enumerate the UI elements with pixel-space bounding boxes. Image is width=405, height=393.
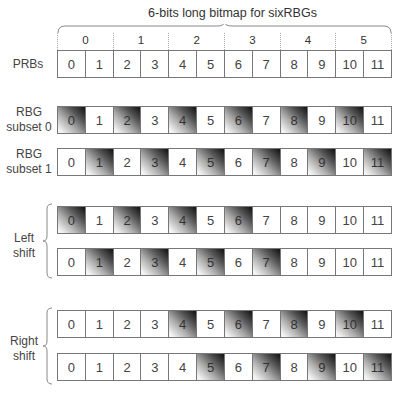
prb-cell: 1 xyxy=(86,311,114,337)
prb-cell: 8 xyxy=(281,249,309,275)
prb-cell: 7 xyxy=(253,107,281,133)
prb-cell: 3 xyxy=(141,51,169,77)
label-text: PRBs xyxy=(13,57,44,71)
prb-cell: 11 xyxy=(364,107,391,133)
prb-cell-selected: 8 xyxy=(281,311,309,337)
prb-cell: 4 xyxy=(169,249,197,275)
prb-cell: 0 xyxy=(58,249,86,275)
left-shift-brace-icon xyxy=(42,203,54,279)
prb-cell: 0 xyxy=(58,354,86,380)
prb-cell-selected: 8 xyxy=(281,107,309,133)
prb-cell: 10 xyxy=(336,207,364,233)
label-text: RBG xyxy=(2,105,56,120)
prb-cell: 11 xyxy=(364,207,391,233)
prb-cell: 1 xyxy=(86,207,114,233)
prb-cell: 5 xyxy=(197,107,225,133)
row-left-shift-subset-0: 01234567891011 xyxy=(57,206,392,234)
prb-cell: 9 xyxy=(308,249,336,275)
prb-cell: 8 xyxy=(281,207,309,233)
prb-cell: 6 xyxy=(225,51,253,77)
prb-cell: 9 xyxy=(308,207,336,233)
row-label-rbg-subset-1: RBG subset 1 xyxy=(2,147,56,177)
prb-cell: 10 xyxy=(336,51,364,77)
prb-cell-selected: 6 xyxy=(225,311,253,337)
rbg-index: 1 xyxy=(113,33,169,50)
prb-cell: 2 xyxy=(114,311,142,337)
prb-cell-selected: 9 xyxy=(308,354,336,380)
prb-cell: 1 xyxy=(86,107,114,133)
prb-cell: 1 xyxy=(86,51,114,77)
prb-cell: 3 xyxy=(141,354,169,380)
right-shift-brace-icon xyxy=(42,307,54,385)
prb-cell-selected: 3 xyxy=(141,149,169,175)
prb-cell: 6 xyxy=(225,149,253,175)
prb-cell: 3 xyxy=(141,311,169,337)
prb-cell: 7 xyxy=(253,311,281,337)
row-left-shift-subset-1: 01234567891011 xyxy=(57,248,392,276)
prb-cell-selected: 4 xyxy=(169,107,197,133)
prb-cell: 2 xyxy=(114,51,142,77)
prb-cell: 6 xyxy=(225,354,253,380)
prb-cell: 0 xyxy=(58,149,86,175)
prb-cell-selected: 1 xyxy=(86,149,114,175)
rbg-index: 0 xyxy=(57,33,113,50)
label-text: subset 0 xyxy=(2,120,56,135)
prb-cell-selected: 1 xyxy=(86,249,114,275)
prb-cell: 1 xyxy=(86,354,114,380)
prb-cell-selected: 2 xyxy=(114,207,142,233)
prb-cell: 8 xyxy=(281,149,309,175)
prb-cell: 4 xyxy=(169,51,197,77)
prb-cell-selected: 0 xyxy=(58,207,86,233)
prb-cell-selected: 9 xyxy=(308,149,336,175)
prb-cell-selected: 11 xyxy=(364,149,391,175)
diagram-title: 6-bits long bitmap for sixRBGs xyxy=(0,6,405,20)
prb-cell: 11 xyxy=(364,249,391,275)
row-right-shift-subset-0: 01234567891011 xyxy=(57,310,392,338)
rbg-index-header: 0 1 2 3 4 5 xyxy=(57,33,392,50)
row-rbg-subset-1: 01234567891011 xyxy=(57,148,392,176)
prb-cell-selected: 6 xyxy=(225,207,253,233)
prb-cell-selected: 6 xyxy=(225,107,253,133)
prb-cell: 8 xyxy=(281,354,309,380)
prb-cell: 5 xyxy=(197,311,225,337)
prb-cell: 2 xyxy=(114,249,142,275)
prb-cell: 2 xyxy=(114,354,142,380)
prb-cell: 5 xyxy=(197,207,225,233)
row-rbg-subset-0: 01234567891011 xyxy=(57,106,392,134)
rbg-index: 2 xyxy=(168,33,224,50)
prb-cell-selected: 4 xyxy=(169,311,197,337)
prb-cell-selected: 11 xyxy=(364,354,391,380)
prb-cell: 6 xyxy=(225,249,253,275)
label-text: Left xyxy=(8,231,40,246)
label-text: subset 1 xyxy=(2,162,56,177)
prb-cell-selected: 2 xyxy=(114,107,142,133)
prb-cell: 4 xyxy=(169,149,197,175)
prb-cell-selected: 10 xyxy=(336,107,364,133)
prb-cell: 4 xyxy=(169,354,197,380)
label-text: RBG xyxy=(2,147,56,162)
prb-cell-selected: 5 xyxy=(197,354,225,380)
prb-cell: 0 xyxy=(58,51,86,77)
prb-cell-selected: 7 xyxy=(253,249,281,275)
label-text: shift xyxy=(6,349,42,364)
prb-cell: 11 xyxy=(364,51,391,77)
rbg-index: 4 xyxy=(280,33,336,50)
row-prbs: 01234567891011 xyxy=(57,50,392,78)
prb-cell-selected: 4 xyxy=(169,207,197,233)
prb-cell-selected: 3 xyxy=(141,249,169,275)
prb-cell: 7 xyxy=(253,51,281,77)
prb-cell-selected: 7 xyxy=(253,149,281,175)
row-label-prbs: PRBs xyxy=(6,57,50,72)
row-label-right-shift: Right shift xyxy=(6,334,42,364)
prb-cell-selected: 5 xyxy=(197,149,225,175)
prb-cell: 10 xyxy=(336,149,364,175)
prb-cell-selected: 0 xyxy=(58,107,86,133)
prb-cell: 11 xyxy=(364,311,391,337)
label-text: shift xyxy=(8,246,40,261)
prb-cell-selected: 10 xyxy=(336,311,364,337)
row-label-rbg-subset-0: RBG subset 0 xyxy=(2,105,56,135)
prb-cell: 5 xyxy=(197,51,225,77)
label-text: Right xyxy=(6,334,42,349)
rbg-index: 3 xyxy=(224,33,280,50)
prb-cell: 3 xyxy=(141,107,169,133)
